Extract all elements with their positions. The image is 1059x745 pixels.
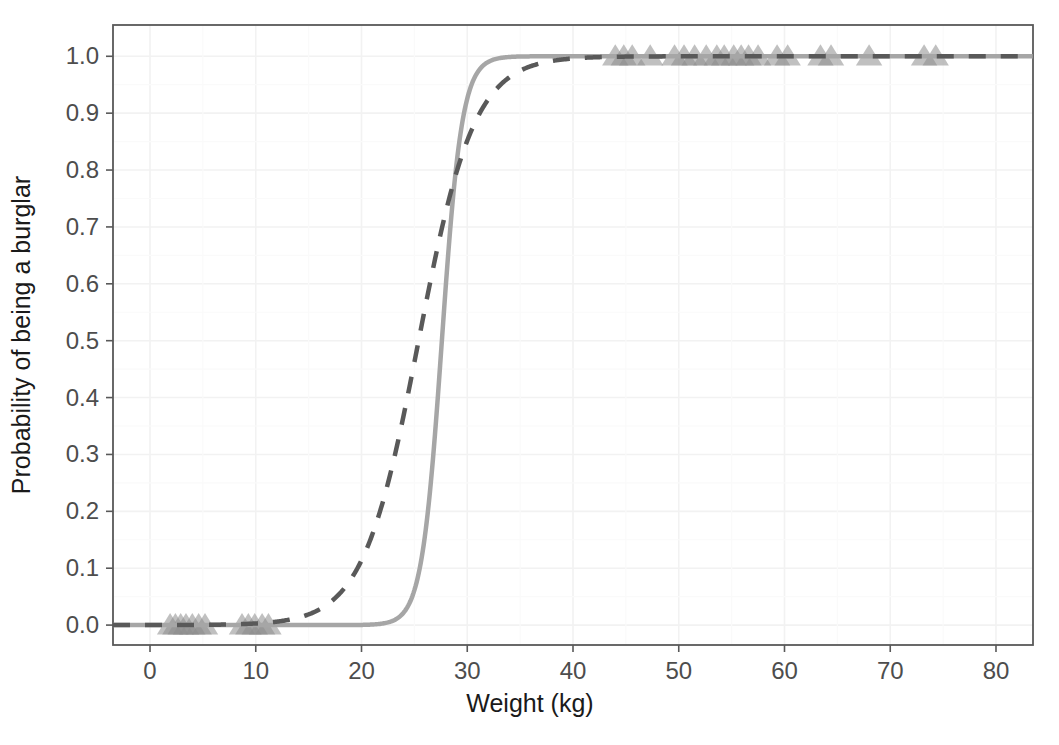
y-tick-label: 0.6 xyxy=(66,270,99,297)
x-tick-label: 70 xyxy=(877,657,904,684)
y-tick-label: 0.5 xyxy=(66,327,99,354)
x-tick-label: 60 xyxy=(771,657,798,684)
x-tick-label: 0 xyxy=(143,657,156,684)
x-tick-label: 40 xyxy=(560,657,587,684)
y-tick-label: 0.1 xyxy=(66,554,99,581)
x-tick-label: 80 xyxy=(983,657,1010,684)
y-tick-label: 0.4 xyxy=(66,384,99,411)
y-tick-label: 0.7 xyxy=(66,213,99,240)
y-tick-label: 0.3 xyxy=(66,440,99,467)
y-tick-label: 1.0 xyxy=(66,42,99,69)
x-tick-label: 50 xyxy=(665,657,692,684)
y-tick-label: 0.2 xyxy=(66,497,99,524)
x-tick-label: 20 xyxy=(348,657,375,684)
logistic-regression-plot: 01020304050607080 0.00.10.20.30.40.50.60… xyxy=(0,0,1059,745)
chart-figure: 01020304050607080 0.00.10.20.30.40.50.60… xyxy=(0,0,1059,745)
y-tick-label: 0.9 xyxy=(66,99,99,126)
y-tick-label: 0.8 xyxy=(66,156,99,183)
y-axis-title: Probability of being a burglar xyxy=(7,176,35,494)
x-tick-label: 30 xyxy=(454,657,481,684)
y-tick-label: 0.0 xyxy=(66,611,99,638)
x-axis-title: Weight (kg) xyxy=(466,689,593,717)
x-tick-label: 10 xyxy=(242,657,269,684)
